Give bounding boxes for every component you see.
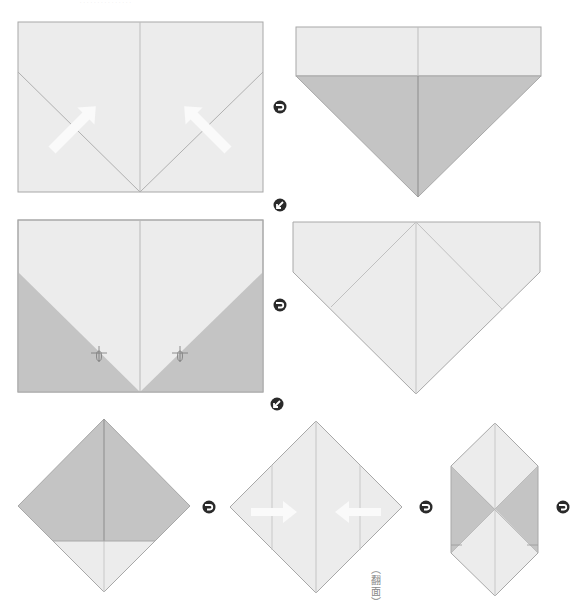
next-step-arrow-down-left-icon: [270, 397, 284, 411]
flip-note-char-2: 面: [369, 586, 383, 597]
flip-note-paren-open: ︵: [369, 564, 383, 575]
flip-note-paren-close: ︶: [369, 597, 383, 604]
flip-over-note: ︵ 翻 面 ︶: [369, 564, 383, 604]
origami-diagram: [0, 0, 580, 604]
next-step-arrow-right-icon: [273, 298, 287, 312]
next-step-arrow-down-left-icon: [273, 198, 287, 212]
next-step-arrow-right-icon: [419, 500, 433, 514]
step-3-diagram: [18, 220, 263, 392]
step-2-diagram: [296, 27, 541, 197]
step-5-diagram: [18, 419, 190, 592]
step-1-diagram: [18, 22, 263, 192]
step-4-diagram: [293, 222, 540, 394]
next-step-arrow-right-icon: [202, 500, 216, 514]
next-step-arrow-right-icon: [556, 500, 570, 514]
step-7-diagram: [451, 423, 538, 596]
next-step-arrow-right-icon: [273, 100, 287, 114]
flip-note-char-1: 翻: [369, 575, 383, 586]
